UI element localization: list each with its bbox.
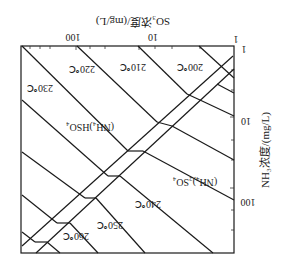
label-240C: 240℃ bbox=[135, 199, 161, 210]
x-tick-1: 1 bbox=[234, 34, 239, 45]
isotherms-lower bbox=[47, 84, 234, 253]
label-220C: 220℃ bbox=[69, 64, 95, 75]
isotherms-upper bbox=[22, 46, 234, 242]
y-tick-1: 1 bbox=[242, 44, 247, 55]
x-tick-10: 10 bbox=[148, 32, 158, 43]
label-210C: 210℃ bbox=[120, 62, 146, 73]
x-axis-label: SO₃浓度/(mg/L) bbox=[96, 15, 170, 29]
y-tick-10: 10 bbox=[241, 116, 251, 127]
label-260C: 260℃ bbox=[63, 231, 89, 242]
label-250C: 250℃ bbox=[97, 220, 123, 231]
x-tick-100: 100 bbox=[66, 32, 81, 43]
right-ticks bbox=[230, 70, 234, 230]
label-230C: 230℃ bbox=[27, 83, 53, 94]
chart: SO₃浓度/(mg/L) 1 10 100 1 10 100 NH₃浓度/(mg… bbox=[0, 0, 283, 274]
y-tick-100: 100 bbox=[241, 197, 256, 208]
label-nh4hso4: (NH₄)HSO₄ bbox=[65, 121, 114, 133]
y-axis-label: NH₃浓度/(mg/L) bbox=[258, 112, 272, 188]
label-200C: 200℃ bbox=[177, 62, 203, 73]
label-nh42so4: (NH₄)₂SO₄ bbox=[172, 176, 217, 188]
